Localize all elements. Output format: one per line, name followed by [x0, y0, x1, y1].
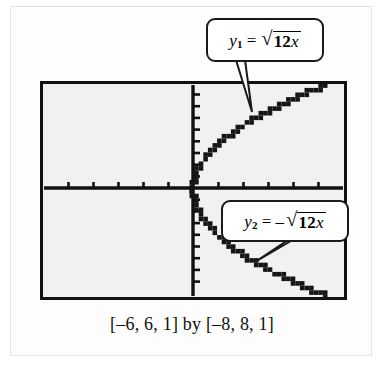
window-settings-caption: [–6, 6, 1] by [–8, 8, 1]	[0, 314, 384, 335]
y1-equals: =	[247, 32, 257, 49]
y2-variable: y	[244, 213, 252, 230]
y2-negative-sign: –	[276, 213, 285, 230]
y1-radicand: 12x	[273, 31, 301, 50]
callout-y2-equation: y2 = – √ 12x	[244, 211, 325, 231]
callout-y1-box: y1 = √ 12x	[206, 18, 324, 62]
radical-sign-icon: √	[286, 210, 297, 229]
y1-radicand-variable: x	[291, 32, 299, 51]
y2-radicand-number: 12	[298, 213, 315, 232]
figure-page: y1 = √ 12x y2 = – √ 12x [–6, 6, 1] by [–…	[0, 0, 384, 369]
y2-subscript: 2	[252, 220, 258, 231]
y2-radicand: 12x	[297, 212, 325, 231]
callout-y1-equation: y1 = √ 12x	[229, 30, 301, 50]
graph-plot	[40, 81, 347, 300]
y1-subscript: 1	[237, 39, 243, 50]
y1-variable: y	[229, 32, 237, 49]
curve-y1	[190, 83, 328, 193]
radical-sign-icon: √	[261, 29, 272, 48]
y2-equals: =	[262, 213, 272, 230]
y2-radical: √ 12x	[286, 211, 325, 231]
y2-radicand-variable: x	[316, 213, 324, 232]
y1-radical: √ 12x	[261, 30, 300, 50]
y1-radicand-number: 12	[274, 32, 291, 51]
callout-y2-box: y2 = – √ 12x	[221, 200, 349, 242]
